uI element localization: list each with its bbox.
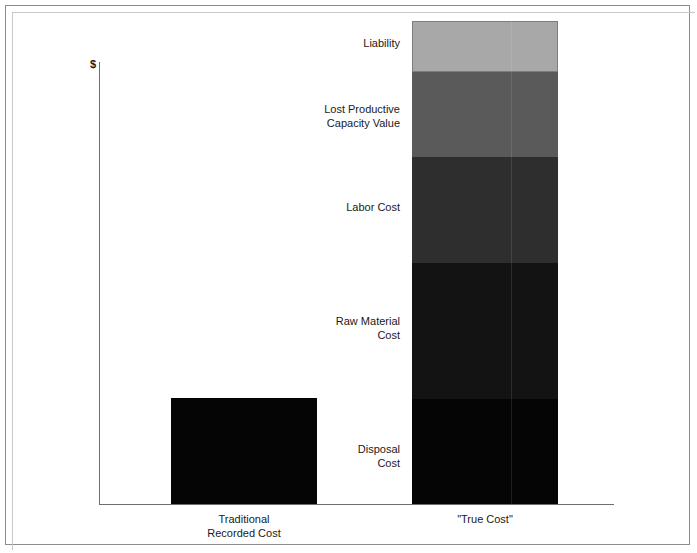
segment-label-disposal-cost: Disposal Cost [190,443,400,470]
segment-label-lost-productive-capacity-value: Lost Productive Capacity Value [190,103,400,130]
chart-figure: $ Liability Lost Productive Capacity Val… [0,0,697,553]
y-axis-line [99,62,100,505]
stack-segment-liability[interactable] [412,21,558,72]
category-label-true-cost: "True Cost" [415,512,555,526]
bar-true-cost[interactable] [412,21,558,504]
stack-segment-raw-material-cost[interactable] [412,263,558,399]
stack-segment-lost-productive-capacity-value[interactable] [412,72,558,157]
stack-segment-disposal-cost[interactable] [412,399,558,504]
segment-label-labor-cost: Labor Cost [190,201,400,215]
category-label-traditional-recorded-cost: Traditional Recorded Cost [164,512,324,540]
stack-segment-labor-cost[interactable] [412,157,558,263]
segment-label-liability: Liability [190,37,400,51]
x-axis-line [99,504,614,505]
y-axis-label: $ [80,58,96,71]
segment-label-raw-material-cost: Raw Material Cost [190,315,400,342]
